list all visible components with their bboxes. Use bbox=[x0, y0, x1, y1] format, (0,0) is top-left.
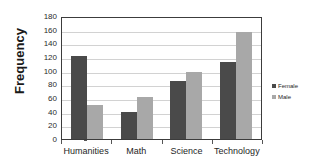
bar-groups bbox=[62, 18, 261, 139]
y-axis-tick-label: 80 bbox=[27, 81, 57, 89]
x-axis-tick-mark bbox=[111, 140, 112, 144]
y-axis-tick-label: 180 bbox=[27, 13, 57, 21]
bar bbox=[236, 32, 252, 139]
legend-label: Male bbox=[278, 94, 291, 100]
x-axis-tick-label: Math bbox=[111, 145, 161, 159]
bar bbox=[121, 112, 137, 139]
x-axis-tick-label: Humanities bbox=[61, 145, 111, 159]
square-dark-icon bbox=[272, 84, 276, 88]
legend-item: Female bbox=[272, 83, 318, 89]
bar-group bbox=[71, 18, 103, 139]
legend-label: Female bbox=[278, 83, 298, 89]
legend-item: Male bbox=[272, 94, 318, 100]
x-axis-tick-mark bbox=[162, 140, 163, 144]
plot-area bbox=[61, 17, 262, 140]
y-axis-tick-label: 160 bbox=[27, 27, 57, 35]
x-axis-tick-mark bbox=[212, 140, 213, 144]
square-gray-icon bbox=[272, 95, 276, 99]
y-axis-tick-label: 20 bbox=[27, 122, 57, 130]
bar bbox=[71, 56, 87, 139]
bar-group bbox=[170, 18, 202, 139]
bar bbox=[137, 97, 153, 139]
y-axis-tick-labels: 180160140120100806040200 bbox=[27, 0, 57, 168]
bar-group bbox=[121, 18, 153, 139]
x-axis-tick-mark bbox=[262, 140, 263, 144]
x-axis-tick-label: Science bbox=[162, 145, 212, 159]
x-axis-tick-label: Technology bbox=[212, 145, 262, 159]
legend: FemaleMale bbox=[272, 83, 318, 105]
y-axis-tick-label: 0 bbox=[27, 136, 57, 144]
x-axis-tick-labels: HumanitiesMathScienceTechnology bbox=[61, 145, 262, 159]
bar bbox=[220, 62, 236, 139]
bar-chart: Frequency 180160140120100806040200 Human… bbox=[0, 0, 318, 168]
y-axis-title: Frequency bbox=[12, 11, 28, 111]
bar bbox=[87, 105, 103, 139]
y-axis-tick-label: 60 bbox=[27, 95, 57, 103]
bar bbox=[170, 81, 186, 139]
bar bbox=[186, 72, 202, 139]
y-axis-tick-label: 120 bbox=[27, 54, 57, 62]
y-axis-tick-label: 40 bbox=[27, 109, 57, 117]
bar-group bbox=[220, 18, 252, 139]
x-axis-tick-mark bbox=[61, 140, 62, 144]
y-axis-tick-label: 100 bbox=[27, 68, 57, 76]
y-axis-tick-label: 140 bbox=[27, 40, 57, 48]
